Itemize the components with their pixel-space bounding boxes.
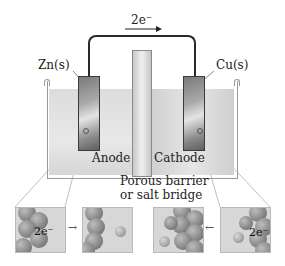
anode-arrow: → (68, 221, 77, 234)
inset-anode-after (82, 207, 133, 253)
inset-cathode-before: 2e⁻ (220, 207, 271, 253)
copper-label: Cu(s) (216, 58, 248, 72)
barrier-label-line2: or salt bridge (120, 188, 202, 202)
zinc-label: Zn(s) (38, 58, 70, 72)
barrier-label-line1: Porous barrier (120, 174, 208, 188)
cathode-electrons-label: 2e⁻ (249, 226, 268, 239)
inset-anode-before: 2e⁻ (15, 207, 66, 253)
cathode-zoom-marker (197, 128, 203, 134)
zinc-electrode (78, 76, 100, 151)
cathode-label: Cathode (154, 151, 205, 165)
inset-cathode-after (153, 207, 204, 253)
anode-zoom-marker (83, 128, 89, 134)
electron-flow-label: 2e⁻ (131, 13, 152, 27)
anode-label: Anode (92, 151, 130, 165)
porous-barrier (132, 50, 152, 177)
cathode-arrow: ← (205, 221, 214, 234)
copper-electrode (183, 76, 205, 151)
anode-electrons-label: 2e⁻ (34, 225, 53, 238)
